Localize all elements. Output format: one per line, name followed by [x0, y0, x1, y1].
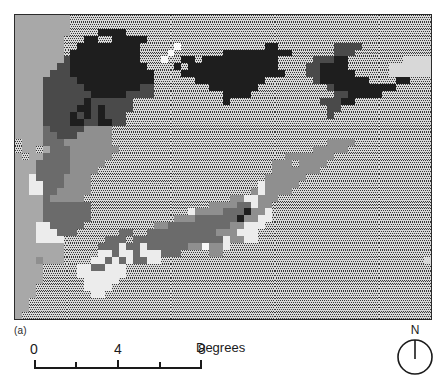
raster-map	[14, 14, 432, 320]
panel-label: (a)	[14, 325, 27, 336]
north-arrow-label: N	[411, 323, 420, 337]
raster-map-canvas	[15, 15, 431, 319]
scale-tick-label-0: 0	[30, 341, 38, 357]
scale-bar: 0 4 8	[28, 340, 218, 376]
scale-bar-graphic: 0 4 8	[28, 340, 218, 376]
north-arrow-graphic: N	[392, 322, 438, 380]
scale-units-label: Degrees	[196, 340, 245, 355]
scale-tick-label-4: 4	[114, 341, 122, 357]
north-arrow: N	[392, 322, 438, 380]
figure-panel: (a) 0 4 8 Degrees N	[0, 0, 445, 386]
